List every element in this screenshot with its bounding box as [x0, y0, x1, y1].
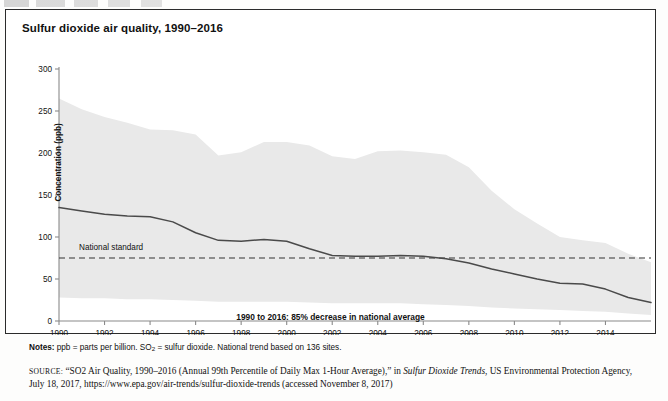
national-standard-label: National standard	[79, 243, 144, 252]
notes-prefix: Notes:	[29, 343, 54, 352]
x-axis-tick-label: 2008	[460, 329, 479, 335]
y-axis-tick-label: 150	[38, 191, 52, 200]
y-axis-title: Concentration (ppb)	[54, 123, 63, 201]
x-axis-tick-label: 2010	[505, 329, 524, 335]
figure-notes: Notes: ppb = parts per billion. SO2 = su…	[29, 343, 342, 352]
chart-plot-area: 0501001502002503001990199219941996199820…	[6, 10, 657, 335]
figure-page: Sulfur dioxide air quality, 1990–2016 05…	[0, 0, 668, 401]
x-axis-caption: 1990 to 2016: 85% decrease in national a…	[6, 312, 655, 322]
notes-text-a: ppb = parts per billion. SO	[54, 343, 151, 352]
x-axis-tick-label: 1990	[50, 329, 69, 335]
x-axis-tick-label: 2002	[323, 329, 342, 335]
x-axis-tick-label: 2012	[551, 329, 570, 335]
y-axis-tick-label: 250	[38, 107, 52, 116]
x-axis-tick-label: 1994	[141, 329, 160, 335]
y-axis-tick-label: 50	[43, 275, 53, 284]
y-axis-tick-label: 200	[38, 149, 52, 158]
y-axis-tick-label: 100	[38, 233, 52, 242]
figure-box: Sulfur dioxide air quality, 1990–2016 05…	[5, 9, 656, 334]
source-part-1: “SO2 Air Quality, 1990–2016 (Annual 99th…	[63, 366, 403, 376]
x-axis-tick-label: 1998	[232, 329, 251, 335]
x-axis-tick-label: 2004	[369, 329, 388, 335]
x-axis-tick-label: 1996	[187, 329, 206, 335]
source-publication-title: Sulfur Dioxide Trends	[403, 366, 485, 376]
source-label: SOURCE:	[29, 367, 63, 376]
notes-text-b: = sulfur dioxide. National trend based o…	[155, 343, 341, 352]
y-axis-tick-label: 300	[38, 65, 52, 74]
x-axis-tick-label: 2000	[278, 329, 297, 335]
x-axis-tick-label: 1992	[95, 329, 114, 335]
sulfur-dioxide-line-chart: 0501001502002503001990199219941996199820…	[6, 10, 657, 335]
cropped-header-remnant	[4, 0, 184, 7]
x-axis-tick-label: 2006	[414, 329, 433, 335]
figure-source: SOURCE: “SO2 Air Quality, 1990–2016 (Ann…	[29, 365, 641, 392]
x-axis-tick-label: 2014	[596, 329, 615, 335]
